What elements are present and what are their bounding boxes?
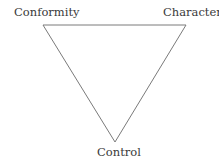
vertex-label-control: Control: [97, 147, 141, 159]
edge-control-conformity: [43, 25, 115, 142]
edge-character-control: [115, 25, 186, 142]
vertex-label-character: Character: [163, 7, 219, 19]
vertex-label-conformity: Conformity: [14, 7, 80, 19]
triangle-diagram: [0, 0, 219, 165]
